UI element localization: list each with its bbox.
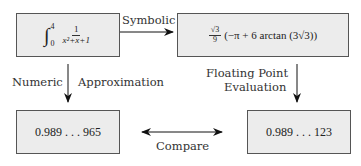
symbolic-expression: √3 9 (−π + 6 arctan (3√3)) [209, 26, 317, 45]
floating-point-label: Floating Point [206, 67, 288, 80]
integral-box: ∫ 4 0 1 x²+x+1 [16, 13, 120, 57]
numeric-value-box: 0.989 . . . 965 [16, 110, 120, 154]
integral-limits: 4 0 [51, 23, 55, 48]
integrand-fraction: 1 x²+x+1 [61, 25, 92, 46]
numeric-value: 0.989 . . . 965 [35, 125, 101, 140]
integral-sign: ∫ [44, 25, 49, 45]
float-value: 0.989 . . . 123 [266, 125, 332, 140]
approximation-label: Approximation [78, 76, 164, 89]
symbolic-body: (−π + 6 arctan (3√3)) [224, 29, 317, 41]
float-value-box: 0.989 . . . 123 [247, 110, 351, 154]
symbolic-label: Symbolic [122, 14, 175, 27]
integral-expression: ∫ 4 0 1 x²+x+1 [44, 23, 92, 48]
upper-limit: 4 [51, 23, 55, 31]
lower-limit: 0 [51, 40, 55, 48]
compare-label: Compare [156, 140, 209, 153]
symbolic-result-box: √3 9 (−π + 6 arctan (3√3)) [177, 13, 349, 57]
integrand-denominator: x²+x+1 [61, 36, 92, 46]
integrand-numerator: 1 [72, 25, 81, 36]
coefficient-fraction: √3 9 [209, 26, 221, 45]
evaluation-label: Evaluation [224, 81, 286, 94]
numeric-label: Numeric [12, 76, 63, 89]
coefficient-denominator: 9 [211, 36, 219, 45]
